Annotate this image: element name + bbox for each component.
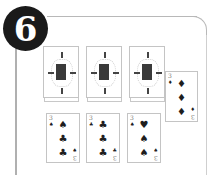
arrow-left-icon: [91, 72, 97, 74]
frame-right-line: [206, 35, 207, 175]
card-rank: 3: [113, 155, 117, 161]
spade-icon: ♠: [49, 122, 53, 127]
diamond-icon: ♦: [177, 79, 186, 89]
face-down-stack-2[interactable]: [86, 46, 123, 102]
diamond-icon: ♦: [191, 107, 195, 112]
face-down-stack-1[interactable]: [43, 46, 80, 102]
arrow-left-icon: [134, 72, 140, 74]
arrow-up-icon: [61, 52, 63, 58]
frame-corner: [186, 16, 207, 37]
arrow-left-icon: [48, 72, 54, 74]
arrow-up-icon: [104, 52, 106, 58]
step-badge: 6: [3, 6, 48, 51]
card-rank: 3: [191, 114, 195, 120]
face-down-stack-3[interactable]: [129, 46, 166, 102]
card-back-emblem-icon: [142, 64, 152, 80]
face-up-card-3[interactable]: 3 ♠ ♥ ♠ ♠ ♠ 3: [127, 113, 161, 163]
club-icon: ♣: [99, 148, 108, 158]
arrow-right-icon: [113, 72, 119, 74]
card-back-emblem-icon: [56, 64, 66, 80]
card-back-emblem-icon: [99, 64, 109, 80]
club-icon: ♣: [59, 148, 68, 158]
spade-icon: ♠: [154, 148, 158, 153]
spade-icon: ♠: [73, 148, 77, 153]
spade-icon: ♠: [59, 120, 68, 130]
card-rank: 3: [154, 155, 158, 161]
club-icon: ♣: [89, 122, 93, 127]
face-up-card-1[interactable]: 3 ♠ ♠ ♣ ♣ ♠ 3: [46, 113, 80, 163]
club-icon: ♣: [113, 148, 117, 153]
face-up-card-2[interactable]: 3 ♣ ♣ ♣ ♣ ♣ 3: [86, 113, 120, 163]
diamond-icon: ♦: [177, 93, 186, 103]
step-number: 6: [14, 12, 38, 46]
arrow-down-icon: [61, 88, 63, 94]
club-icon: ♣: [59, 134, 68, 144]
card-back[interactable]: [129, 46, 165, 98]
card-back[interactable]: [86, 46, 122, 98]
spade-icon: ♠: [130, 122, 134, 127]
face-up-card-top[interactable]: 3 ♦ ♦ ♦ ♦ ♦ 3: [165, 71, 198, 122]
club-icon: ♣: [99, 120, 108, 130]
arrow-right-icon: [156, 72, 162, 74]
diamond-icon: ♦: [168, 80, 172, 85]
card-back[interactable]: [43, 46, 79, 98]
spade-icon: ♠: [140, 134, 149, 144]
card-rank: 3: [73, 155, 77, 161]
heart-icon: ♥: [140, 120, 149, 130]
arrow-up-icon: [147, 52, 149, 58]
arrow-right-icon: [70, 72, 76, 74]
frame-left-line: [15, 45, 17, 175]
club-icon: ♣: [99, 134, 108, 144]
arrow-down-icon: [104, 88, 106, 94]
spade-icon: ♠: [140, 148, 149, 158]
frame-top-line: [47, 16, 197, 17]
arrow-down-icon: [147, 88, 149, 94]
diamond-icon: ♦: [177, 107, 186, 117]
